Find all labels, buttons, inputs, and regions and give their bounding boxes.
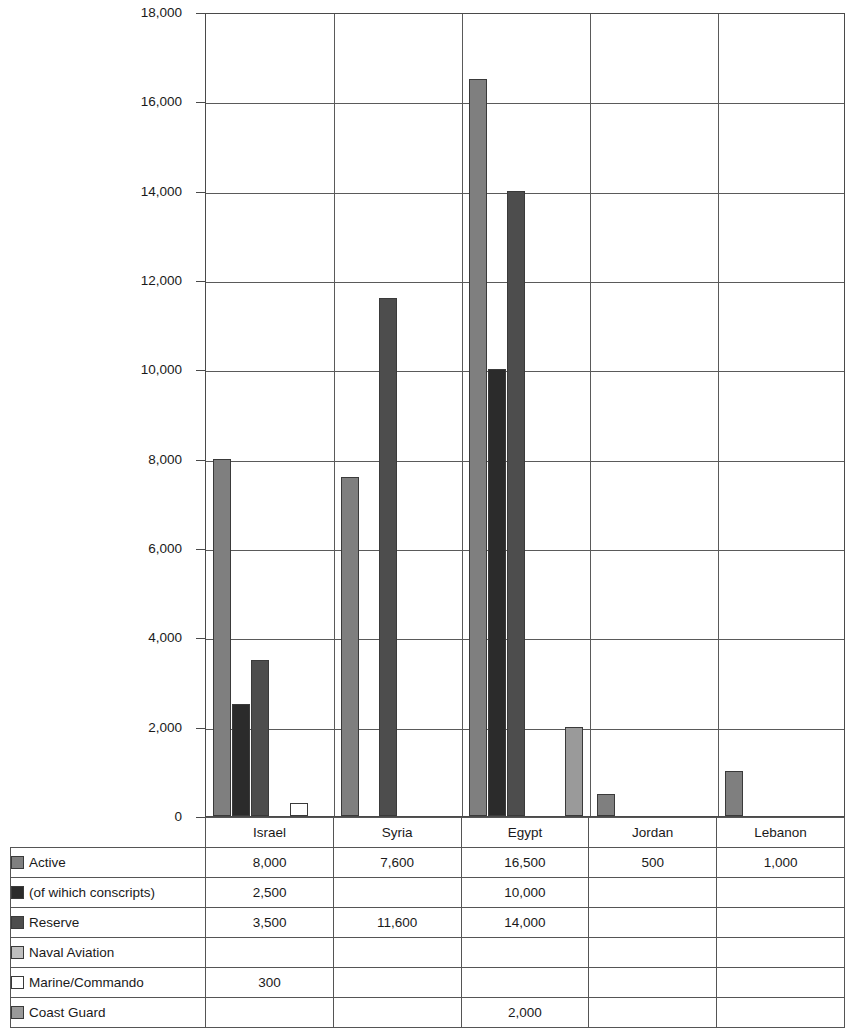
bar-reserve-israel — [251, 660, 269, 816]
table-cell — [589, 908, 717, 938]
bar-active-jordan — [597, 794, 615, 816]
table-row: (of wihich conscripts)2,50010,000 — [11, 878, 845, 908]
table-cell — [589, 878, 717, 908]
y-axis-tick-marks — [196, 13, 205, 817]
legend-row-label-cell: Reserve — [11, 908, 206, 938]
table-cell — [589, 968, 717, 998]
table-corner-cell — [11, 818, 206, 848]
legend-label: Reserve — [29, 915, 79, 930]
legend-row-label-cell: Coast Guard — [11, 998, 206, 1028]
bar-coast-guard-egypt — [565, 727, 583, 816]
y-tick-mark — [196, 370, 205, 371]
table-cell: 2,500 — [206, 878, 334, 908]
table-cell: 8,000 — [206, 848, 334, 878]
column-header-lebanon: Lebanon — [717, 818, 845, 848]
table-row: Coast Guard2,000 — [11, 998, 845, 1028]
y-tick-label: 8,000 — [148, 453, 182, 467]
column-header-syria: Syria — [333, 818, 461, 848]
bar-of-wihich-conscripts-egypt — [488, 369, 506, 816]
table-cell — [717, 908, 845, 938]
table-cell — [206, 998, 334, 1028]
legend-swatch-icon — [11, 976, 24, 989]
plot-area — [205, 13, 845, 817]
table-cell: 10,000 — [461, 878, 589, 908]
bar-reserve-egypt — [507, 191, 525, 816]
column-header-israel: Israel — [206, 818, 334, 848]
table-cell: 2,000 — [461, 998, 589, 1028]
column-header-egypt: Egypt — [461, 818, 589, 848]
table-cell — [333, 968, 461, 998]
table-body: Active8,0007,60016,5005001,000(of wihich… — [11, 848, 845, 1028]
legend-label: Marine/Commando — [29, 975, 144, 990]
table-row: Active8,0007,60016,5005001,000 — [11, 848, 845, 878]
legend-row-label-cell: Active — [11, 848, 206, 878]
y-tick-mark — [196, 728, 205, 729]
table-cell — [461, 938, 589, 968]
y-tick-mark — [196, 102, 205, 103]
legend-label: Naval Aviation — [29, 945, 114, 960]
table-cell — [333, 878, 461, 908]
bar-marine-commando-israel — [290, 803, 308, 816]
y-tick-mark — [196, 192, 205, 193]
table-cell: 500 — [589, 848, 717, 878]
legend-row-label-cell: (of wihich conscripts) — [11, 878, 206, 908]
gridline-vertical — [334, 14, 335, 816]
table-cell — [461, 968, 589, 998]
y-tick-mark — [196, 460, 205, 461]
chart-plot-region: 02,0004,0006,0008,00010,00012,00014,0001… — [0, 0, 862, 830]
table-cell: 300 — [206, 968, 334, 998]
table-cell — [717, 998, 845, 1028]
table-cell: 14,000 — [461, 908, 589, 938]
y-tick-label: 18,000 — [141, 6, 182, 20]
gridline-vertical — [718, 14, 719, 816]
y-tick-label: 16,000 — [141, 96, 182, 110]
y-tick-mark — [196, 13, 205, 14]
table-row: Naval Aviation — [11, 938, 845, 968]
y-tick-mark — [196, 281, 205, 282]
table-cell — [206, 938, 334, 968]
legend-swatch-icon — [11, 856, 24, 869]
table-cell — [717, 968, 845, 998]
bar-of-wihich-conscripts-israel — [232, 704, 250, 816]
y-tick-label: 2,000 — [148, 721, 182, 735]
table-cell: 1,000 — [717, 848, 845, 878]
bar-active-syria — [341, 477, 359, 816]
legend-label: Coast Guard — [29, 1005, 106, 1020]
y-tick-label: 12,000 — [141, 274, 182, 288]
table-cell — [589, 998, 717, 1028]
table-cell: 7,600 — [333, 848, 461, 878]
table-cell — [333, 998, 461, 1028]
table-cell — [717, 878, 845, 908]
bar-active-lebanon — [725, 771, 743, 816]
table-header-row: IsraelSyriaEgyptJordanLebanon — [11, 818, 845, 848]
chart-page: 02,0004,0006,0008,00010,00012,00014,0001… — [0, 0, 862, 1033]
y-tick-label: 6,000 — [148, 542, 182, 556]
y-axis-tick-labels: 02,0004,0006,0008,00010,00012,00014,0001… — [0, 13, 195, 817]
legend-row-label-cell: Naval Aviation — [11, 938, 206, 968]
legend-row-label-cell: Marine/Commando — [11, 968, 206, 998]
gridline-vertical — [590, 14, 591, 816]
table-cell — [589, 938, 717, 968]
table-row: Reserve3,50011,60014,000 — [11, 908, 845, 938]
y-tick-mark — [196, 549, 205, 550]
table-cell — [717, 938, 845, 968]
column-header-jordan: Jordan — [589, 818, 717, 848]
legend-label: (of wihich conscripts) — [29, 885, 155, 900]
table-cell — [333, 938, 461, 968]
legend-swatch-icon — [11, 886, 24, 899]
table-cell: 11,600 — [333, 908, 461, 938]
table-cell: 3,500 — [206, 908, 334, 938]
legend-swatch-icon — [11, 916, 24, 929]
bar-active-israel — [213, 459, 231, 816]
legend-label: Active — [29, 855, 66, 870]
y-tick-mark — [196, 638, 205, 639]
y-tick-label: 4,000 — [148, 632, 182, 646]
table-row: Marine/Commando300 — [11, 968, 845, 998]
gridline-horizontal — [206, 103, 844, 104]
gridline-vertical — [462, 14, 463, 816]
legend-data-table: IsraelSyriaEgyptJordanLebanon Active8,00… — [10, 817, 845, 1028]
bar-reserve-syria — [379, 298, 397, 816]
legend-swatch-icon — [11, 946, 24, 959]
bar-active-egypt — [469, 79, 487, 816]
y-tick-label: 10,000 — [141, 364, 182, 378]
